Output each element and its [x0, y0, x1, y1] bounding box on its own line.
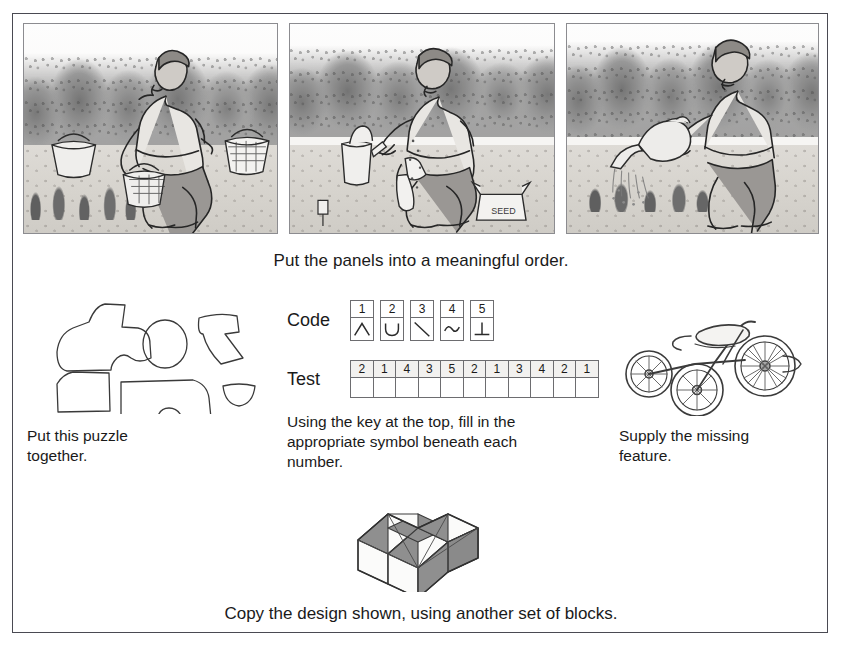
test-cell: 3	[419, 360, 442, 398]
perpendicular-icon	[471, 318, 493, 340]
code-key-cells: 1 2 3	[350, 300, 494, 341]
code-key-4[interactable]: 4	[440, 300, 464, 341]
test-answer-box[interactable]	[396, 378, 418, 397]
cup-icon	[381, 318, 403, 340]
test-answer-box[interactable]	[464, 378, 486, 397]
figure-standing-watering	[567, 24, 818, 233]
test-answer-box[interactable]	[576, 378, 598, 397]
task-puzzle: Put this puzzle together.	[27, 290, 263, 466]
test-number: 3	[509, 361, 531, 378]
task-block-design: Copy the design shown, using another set…	[13, 506, 829, 626]
test-number: 2	[554, 361, 576, 378]
test-row: Test 2 1 4 3 5 2 1 3 4 2 1	[287, 360, 579, 398]
test-label: Test	[287, 369, 339, 390]
test-answer-box[interactable]	[419, 378, 441, 397]
code-key-3[interactable]: 3	[410, 300, 434, 341]
test-answer-box[interactable]	[374, 378, 396, 397]
half-disc-piece	[223, 384, 255, 406]
truck-body-piece	[121, 380, 211, 414]
panel-picking-berries[interactable]	[23, 23, 278, 234]
test-number: 1	[374, 361, 396, 378]
code-key-1[interactable]: 1	[350, 300, 374, 341]
code-key-number: 4	[441, 301, 463, 318]
code-key-number: 2	[381, 301, 403, 318]
test-number: 5	[441, 361, 463, 378]
strip-caption: Put the panels into a meaningful order.	[23, 251, 819, 271]
caret-icon	[351, 318, 373, 340]
test-cell: 2	[464, 360, 487, 398]
code-key-number: 5	[471, 301, 493, 318]
handlebar	[673, 336, 691, 350]
figure-kneeling-picking	[24, 24, 277, 233]
fender	[783, 356, 801, 372]
page-bleed-text	[14, 640, 826, 648]
test-answer-box[interactable]	[509, 378, 531, 397]
task-missing-feature: Supply the missing feature.	[619, 290, 819, 466]
test-answer-box[interactable]	[486, 378, 508, 397]
corner-piece	[57, 372, 110, 412]
test-answer-box[interactable]	[554, 378, 576, 397]
coding-caption: Using the key at the top, fill in the ap…	[287, 412, 565, 472]
code-label: Code	[287, 310, 339, 331]
puzzle-pieces[interactable]	[27, 290, 263, 414]
tilde-icon	[441, 318, 463, 340]
puzzle-caption: Put this puzzle together.	[27, 426, 187, 466]
truck-rear-piece	[199, 314, 244, 364]
panel-strip: SEED	[23, 23, 819, 234]
test-number: 3	[419, 361, 441, 378]
seat	[696, 325, 749, 346]
test-cell: 2	[351, 360, 374, 398]
code-key-5[interactable]: 5	[470, 300, 494, 341]
diagonal-icon	[411, 318, 433, 340]
test-number: 1	[576, 361, 598, 378]
code-key-row: Code 1 2 3	[287, 294, 579, 346]
test-cell: 5	[441, 360, 464, 398]
code-key-number: 1	[351, 301, 373, 318]
test-answer-box[interactable]	[351, 378, 373, 397]
test-number: 4	[396, 361, 418, 378]
test-cell: 3	[509, 360, 532, 398]
test-cell: 4	[396, 360, 419, 398]
svg-text:SEED: SEED	[491, 206, 515, 216]
test-cell: 1	[374, 360, 397, 398]
test-cell: 1	[486, 360, 509, 398]
test-answer-box[interactable]	[531, 378, 553, 397]
panel-watering[interactable]	[566, 23, 819, 234]
test-number: 2	[464, 361, 486, 378]
tricycle-drawing[interactable]	[619, 290, 819, 416]
test-cell: 2	[554, 360, 577, 398]
panel-sowing-seeds[interactable]: SEED	[289, 23, 555, 234]
test-answer-box[interactable]	[441, 378, 463, 397]
test-cell: 4	[531, 360, 554, 398]
missing-feature-caption: Supply the missing feature.	[619, 426, 789, 466]
figure-kneeling-sowing: SEED	[290, 24, 554, 233]
worksheet-frame: SEED	[12, 13, 828, 633]
test-cell: 1	[576, 360, 599, 398]
block-design-caption: Copy the design shown, using another set…	[13, 604, 829, 624]
block-design-drawing[interactable]	[348, 506, 494, 592]
test-number: 1	[486, 361, 508, 378]
truck-cab-piece	[57, 304, 151, 371]
test-number: 2	[351, 361, 373, 378]
code-key-2[interactable]: 2	[380, 300, 404, 341]
task-coding: Code 1 2 3	[287, 294, 579, 472]
test-number: 4	[531, 361, 553, 378]
test-grid[interactable]: 2 1 4 3 5 2 1 3 4 2 1	[350, 360, 599, 398]
middle-task-row: Put this puzzle together. Code 1 2	[23, 290, 819, 505]
code-key-number: 3	[411, 301, 433, 318]
front-wheel	[735, 336, 795, 396]
